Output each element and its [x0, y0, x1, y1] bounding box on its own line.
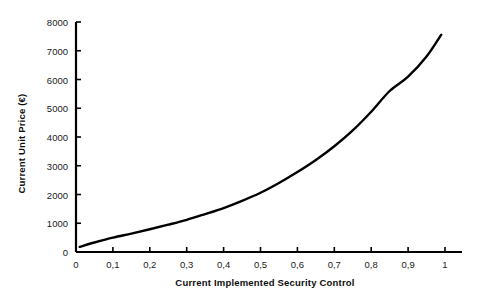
x-tick-label: 0,8 [365, 259, 378, 270]
y-tick-label: 1000 [14, 218, 68, 229]
x-tick-label: 0,9 [401, 259, 414, 270]
y-tick-label: 8000 [14, 17, 68, 28]
x-tick-label: 0,5 [254, 259, 267, 270]
x-axis-title: Current Implemented Security Control [76, 277, 454, 288]
axis-lines [76, 22, 462, 252]
x-tick-label: 0,4 [217, 259, 230, 270]
x-tick-label: 0 [73, 259, 78, 270]
x-tick-label: 1 [442, 259, 447, 270]
x-tick-label: 0,2 [143, 259, 156, 270]
x-tick-label: 0,1 [106, 259, 119, 270]
x-tick-label: 0,3 [180, 259, 193, 270]
y-tick-label: 7000 [14, 45, 68, 56]
chart-container: 010002000300040005000600070008000 00,10,… [0, 0, 478, 305]
x-tick-label: 0,6 [291, 259, 304, 270]
y-axis-title: Current Unit Price (€) [16, 69, 27, 219]
data-series-group [80, 35, 442, 247]
x-tick-label: 0,7 [328, 259, 341, 270]
y-tick-label: 0 [14, 247, 68, 258]
series-line-0 [80, 35, 442, 247]
